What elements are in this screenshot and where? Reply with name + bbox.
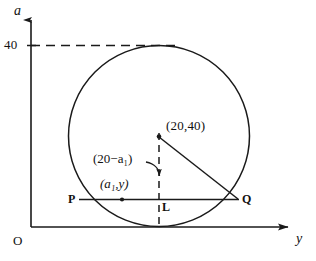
leader-arrow-segment-length bbox=[146, 162, 160, 176]
center-coordinate-label: (20,40) bbox=[166, 119, 205, 132]
segment-length-label: (20−a₁) bbox=[93, 152, 132, 165]
chord-point-coordinate-label: (a₁,y) bbox=[100, 177, 129, 190]
center-point-marker bbox=[157, 134, 162, 139]
geometry-figure: a y 40 O P Q L (20,40) (a₁,y) (20−a₁) bbox=[0, 0, 316, 261]
tick-label-40: 40 bbox=[4, 38, 18, 51]
point-label-p: P bbox=[68, 193, 75, 205]
figure-canvas bbox=[0, 0, 316, 261]
radius-to-q bbox=[159, 137, 238, 199]
point-label-q: Q bbox=[242, 193, 251, 205]
axis-label-a: a bbox=[14, 4, 21, 18]
chord-point-marker bbox=[120, 197, 124, 201]
axis-label-y: y bbox=[296, 232, 302, 246]
origin-label: O bbox=[13, 234, 22, 247]
point-label-l: L bbox=[162, 201, 170, 213]
